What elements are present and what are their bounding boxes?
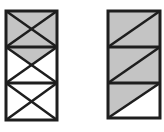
right-frame (108, 11, 160, 118)
left-frame (6, 11, 57, 120)
diagram-canvas (0, 0, 164, 132)
left-middle-triangle-fill (6, 47, 57, 65)
